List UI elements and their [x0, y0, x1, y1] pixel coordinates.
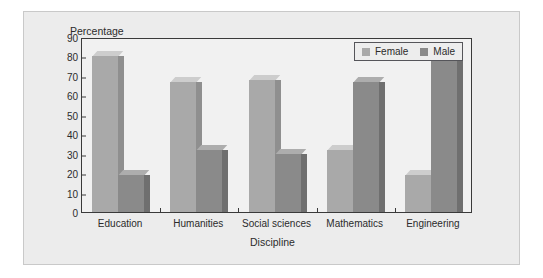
bar-face [249, 80, 275, 212]
bar-face [118, 175, 144, 212]
y-axis-tick-label: 30 [67, 149, 78, 160]
y-axis-tick-mark [82, 194, 86, 195]
x-axis-category-label: Education [98, 218, 142, 229]
bar-face [353, 82, 379, 212]
x-axis-tick-mark [395, 208, 396, 212]
x-axis-title: Discipline [24, 236, 521, 248]
y-axis-tick-label: 10 [67, 188, 78, 199]
bar-side [457, 56, 463, 212]
legend-entry-female: Female [362, 46, 408, 57]
bar-face [92, 56, 118, 212]
legend-swatch-male-icon [420, 48, 428, 56]
y-axis-tick-labels: 0102030405060708090 [48, 38, 78, 213]
x-axis-category-label: Humanities [173, 218, 223, 229]
y-axis-tick-label: 0 [72, 208, 78, 219]
y-axis-tick-mark [82, 175, 86, 176]
bar-side [301, 154, 307, 212]
y-axis-tick-mark [82, 77, 86, 78]
bar-face [275, 154, 301, 212]
bar-chart: Percentage 0102030405060708090 Female Ma… [24, 12, 519, 264]
bar-engineering-male [431, 56, 457, 212]
bar-top [249, 75, 280, 80]
legend-label-male: Male [433, 46, 455, 57]
y-axis-tick-label: 20 [67, 169, 78, 180]
chart-legend: Female Male [354, 42, 463, 61]
y-axis-tick-label: 50 [67, 110, 78, 121]
bar-humanities-male [196, 150, 222, 212]
x-axis-category-label: Mathematics [326, 218, 383, 229]
x-axis-tick-mark [317, 208, 318, 212]
figure-panel: Percentage 0102030405060708090 Female Ma… [23, 11, 520, 265]
y-axis-tick-mark [82, 97, 86, 98]
bar-top [197, 145, 228, 150]
y-axis-tick-label: 80 [67, 52, 78, 63]
bar-top [93, 51, 124, 56]
bar-face [170, 82, 196, 212]
bar-face [327, 150, 353, 212]
y-axis-title: Percentage [70, 25, 124, 37]
y-axis-tick-label: 90 [67, 33, 78, 44]
x-axis-tick-mark [238, 208, 239, 212]
plot-frame [81, 38, 472, 213]
y-axis-tick-mark [82, 116, 86, 117]
bar-face [431, 56, 457, 212]
bar-side [379, 82, 385, 212]
bar-social-sciences-male [275, 154, 301, 212]
bar-top [275, 149, 306, 154]
bar-mathematics-female [327, 150, 353, 212]
y-axis-tick-mark [82, 155, 86, 156]
legend-entry-male: Male [420, 46, 455, 57]
legend-swatch-female-icon [362, 48, 370, 56]
bar-top [119, 170, 150, 175]
y-axis-tick-mark [82, 58, 86, 59]
plot-inner [82, 39, 471, 212]
bar-side [222, 150, 228, 212]
y-axis-tick-mark [82, 136, 86, 137]
bar-top [171, 77, 202, 82]
bar-face [405, 175, 431, 212]
bar-social-sciences-female [249, 80, 275, 212]
bar-face [196, 150, 222, 212]
x-axis-tick-mark [160, 208, 161, 212]
bar-mathematics-male [353, 82, 379, 212]
y-axis-tick-label: 60 [67, 91, 78, 102]
bar-education-male [118, 175, 144, 212]
x-axis-category-label: Engineering [406, 218, 459, 229]
bar-education-female [92, 56, 118, 212]
bar-engineering-female [405, 175, 431, 212]
x-axis-category-label: Social sciences [242, 218, 311, 229]
bar-humanities-female [170, 82, 196, 212]
y-axis-tick-label: 40 [67, 130, 78, 141]
y-axis-tick-label: 70 [67, 71, 78, 82]
legend-label-female: Female [375, 46, 408, 57]
bar-side [144, 175, 150, 212]
bar-top [353, 77, 384, 82]
